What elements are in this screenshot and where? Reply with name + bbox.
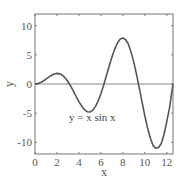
y-tick-label: 5 <box>27 49 33 61</box>
x-tick-label: 2 <box>54 156 60 168</box>
plot-area: 024681012 1050-5-10 <box>17 14 173 168</box>
series-line <box>35 38 173 148</box>
x-axis-label: x <box>101 165 107 179</box>
y-tick-label: 0 <box>27 78 33 90</box>
x-tick-label: 0 <box>32 156 38 168</box>
y-tick-label: -10 <box>17 136 32 148</box>
y-tick-label: -5 <box>23 107 33 119</box>
chart: 024681012 1050-5-10 y = x sin x x y <box>0 0 185 186</box>
y-tick-label: 10 <box>21 20 33 32</box>
x-tick-label: 8 <box>120 156 126 168</box>
x-tick-label: 12 <box>161 156 172 168</box>
x-tick-label: 4 <box>76 156 82 168</box>
curve-annotation: y = x sin x <box>69 111 116 123</box>
x-tick-label: 10 <box>139 156 151 168</box>
y-axis-label: y <box>2 81 16 87</box>
